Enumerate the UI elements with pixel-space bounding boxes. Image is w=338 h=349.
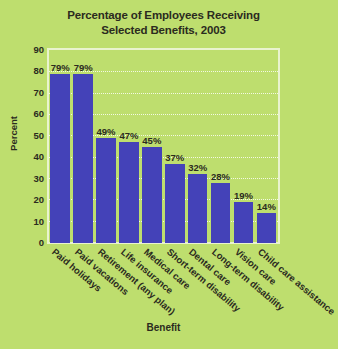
bar[interactable] [50, 74, 70, 243]
bar-value-label: 14% [257, 201, 276, 212]
bars-layer: 79%79%49%47%45%37%32%28%19%14% [49, 50, 278, 243]
bar[interactable] [211, 183, 231, 243]
bar[interactable] [188, 174, 208, 243]
bar[interactable] [73, 74, 93, 243]
y-axis-tick-label: 40 [4, 151, 44, 162]
y-axis-tick-label: 60 [4, 108, 44, 119]
bar-value-label: 79% [51, 62, 70, 73]
bar[interactable] [119, 142, 139, 243]
y-axis-tick-label: 30 [4, 172, 44, 183]
bar-slot: 28% [211, 50, 231, 243]
bar-value-label: 45% [142, 135, 161, 146]
bar-slot: 32% [188, 50, 208, 243]
y-axis-tick-label: 0 [4, 237, 44, 248]
x-axis-title: Benefit [47, 322, 280, 333]
x-axis-tick-labels: Paid holidaysPaid vacationsRetirement (a… [49, 246, 327, 326]
bar-value-label: 49% [97, 126, 116, 137]
chart-title-line-2: Selected Benefits, 2003 [0, 23, 327, 38]
bar-value-label: 28% [211, 171, 230, 182]
bar[interactable] [165, 164, 185, 243]
bar-slot: 47% [119, 50, 139, 243]
bar-slot: 45% [142, 50, 162, 243]
bar-slot: 37% [165, 50, 185, 243]
bar-value-label: 37% [165, 152, 184, 163]
bar[interactable] [96, 138, 116, 243]
y-axis-tick-label: 50 [4, 129, 44, 140]
bar[interactable] [234, 202, 254, 243]
bar-value-label: 79% [74, 62, 93, 73]
bar-value-label: 32% [188, 162, 207, 173]
bar-value-label: 47% [119, 130, 138, 141]
chart-title: Percentage of Employees Receiving Select… [0, 8, 327, 38]
bar[interactable] [142, 147, 162, 244]
bar-slot: 79% [73, 50, 93, 243]
bar-value-label: 19% [234, 190, 253, 201]
bar-slot: 14% [257, 50, 277, 243]
bar-slot: 49% [96, 50, 116, 243]
y-axis-tick-label: 90 [4, 44, 44, 55]
bar-slot: 19% [234, 50, 254, 243]
chart-title-line-1: Percentage of Employees Receiving [0, 8, 327, 23]
y-axis-tick-label: 20 [4, 194, 44, 205]
bar[interactable] [257, 213, 277, 243]
y-axis-tick-label: 80 [4, 65, 44, 76]
y-axis-tick-label: 10 [4, 215, 44, 226]
bar-slot: 79% [50, 50, 70, 243]
y-axis-tick-label: 70 [4, 86, 44, 97]
